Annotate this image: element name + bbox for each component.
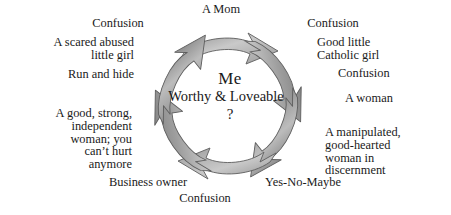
- label-confusion-top-right: Confusion: [283, 17, 383, 30]
- label-yes-no-maybe: Yes-No-Maybe: [245, 176, 361, 189]
- label-a-woman: A woman: [345, 92, 451, 105]
- identity-cycle-diagram: Me Worthy & Loveable ? A Mom Confusion C…: [0, 0, 451, 215]
- label-business-owner: Business owner: [83, 176, 213, 189]
- label-a-mom: A Mom: [181, 3, 261, 16]
- label-run-and-hide: Run and hide: [4, 68, 134, 81]
- label-confusion-top-left: Confusion: [68, 17, 168, 30]
- label-confusion-right: Confusion: [338, 67, 448, 80]
- label-good-strong-independent: A good, strong, independent woman; you c…: [0, 107, 132, 171]
- center-line-question: ?: [160, 106, 300, 122]
- center-line-worthy: Worthy & Loveable: [152, 89, 300, 105]
- center-line-me: Me: [160, 70, 300, 88]
- label-good-little-catholic-girl: Good little Catholic girl: [317, 36, 445, 62]
- label-scared-abused-girl: A scared abused little girl: [4, 36, 134, 62]
- label-confusion-bottom: Confusion: [155, 192, 255, 205]
- label-manipulated-good-hearted: A manipulated, good-hearted woman in dis…: [325, 126, 451, 177]
- center-caption: Me Worthy & Loveable ?: [160, 70, 300, 122]
